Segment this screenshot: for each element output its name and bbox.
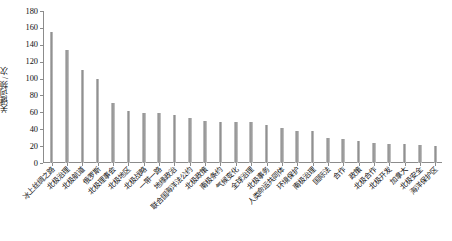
y-axis-tick-label: 120 [25, 56, 38, 67]
bar[interactable] [434, 146, 438, 163]
x-axis-tick-mark [343, 163, 344, 166]
x-axis-label: 合作 [332, 166, 348, 182]
bar-slot [305, 11, 320, 163]
x-axis-tick-mark [405, 163, 406, 166]
x-axis-tick-mark [435, 163, 436, 166]
bar[interactable] [188, 118, 192, 163]
bar[interactable] [65, 50, 69, 163]
bars-container [44, 11, 442, 163]
y-axis-tick-mark [40, 45, 43, 46]
bar-slot [197, 11, 212, 163]
x-axis-tick-mark [113, 163, 114, 166]
y-axis-tick-mark [40, 28, 43, 29]
bar[interactable] [357, 141, 361, 163]
y-axis-tick-mark [40, 62, 43, 63]
y-axis-tick-mark [40, 79, 43, 80]
x-axis-tick-mark [205, 163, 206, 166]
bar-slot [244, 11, 259, 163]
bar[interactable] [341, 139, 345, 163]
bar[interactable] [96, 79, 100, 163]
bar[interactable] [295, 131, 299, 163]
x-axis-tick-mark [236, 163, 237, 166]
y-axis-tick-label: 20 [30, 141, 38, 152]
bar-slot [397, 11, 412, 163]
bar-slot [105, 11, 120, 163]
bar-slot [366, 11, 381, 163]
bar-slot [90, 11, 105, 163]
y-axis-tick-mark [40, 146, 43, 147]
x-axis-tick-mark [282, 163, 283, 166]
x-axis-tick-mark [190, 163, 191, 166]
bar-slot [428, 11, 443, 163]
x-axis-tick-mark [174, 163, 175, 166]
x-axis-tick-mark [267, 163, 268, 166]
x-axis-tick-mark [374, 163, 375, 166]
bar[interactable] [280, 128, 284, 163]
y-axis-tick-label: 140 [25, 39, 38, 50]
y-axis-tick-mark [40, 129, 43, 130]
bar[interactable] [203, 121, 207, 163]
bar-slot [320, 11, 335, 163]
x-axis-tick-mark [420, 163, 421, 166]
bar-slot [121, 11, 136, 163]
bar-chart: 关键词频 / 次 020406080100120140160180 冰上丝绸之路… [0, 0, 452, 241]
bar[interactable] [326, 138, 330, 163]
bar-slot [213, 11, 228, 163]
y-axis-tick-label: 60 [30, 107, 38, 118]
bar-slot [274, 11, 289, 163]
y-axis-tick-label: 180 [25, 6, 38, 17]
y-axis-title: 关键词频 / 次 [1, 50, 15, 130]
bar-slot [59, 11, 74, 163]
bar[interactable] [219, 122, 223, 163]
bar-slot [336, 11, 351, 163]
x-axis-tick-mark [297, 163, 298, 166]
y-axis-tick-mark [40, 11, 43, 12]
x-axis-tick-mark [82, 163, 83, 166]
bar[interactable] [265, 125, 269, 163]
bar[interactable] [311, 131, 315, 163]
x-axis-tick-mark [67, 163, 68, 166]
y-axis-tick-mark [40, 112, 43, 113]
x-axis-tick-mark [98, 163, 99, 166]
bar[interactable] [418, 145, 422, 163]
x-axis-tick-mark [251, 163, 252, 166]
bar-slot [167, 11, 182, 163]
y-axis-tick-mark [40, 163, 43, 164]
x-axis-tick-mark [52, 163, 53, 166]
bar[interactable] [173, 115, 177, 163]
y-axis-tick-label: 160 [25, 22, 38, 33]
bar[interactable] [157, 113, 161, 163]
x-axis-tick-mark [313, 163, 314, 166]
bar[interactable] [249, 122, 253, 163]
x-axis-tick-mark [220, 163, 221, 166]
y-axis-tick-label: 80 [30, 90, 38, 101]
bar[interactable] [403, 144, 407, 163]
bar[interactable] [387, 144, 391, 163]
bar-slot [182, 11, 197, 163]
bar[interactable] [50, 32, 54, 163]
x-axis-tick-mark [159, 163, 160, 166]
bar-slot [382, 11, 397, 163]
bar-slot [412, 11, 427, 163]
x-axis-tick-mark [328, 163, 329, 166]
bar[interactable] [127, 111, 131, 163]
bar-slot [259, 11, 274, 163]
bar[interactable] [372, 143, 376, 163]
bar-slot [351, 11, 366, 163]
bar-slot [228, 11, 243, 163]
x-axis-tick-mark [389, 163, 390, 166]
bar-slot [75, 11, 90, 163]
bar-slot [290, 11, 305, 163]
y-axis-tick-label: 40 [30, 124, 38, 135]
bar[interactable] [142, 113, 146, 163]
x-axis-tick-mark [144, 163, 145, 166]
y-axis-tick-label: 0 [34, 158, 38, 169]
bar-slot [136, 11, 151, 163]
bar-slot [151, 11, 166, 163]
x-axis-tick-mark [359, 163, 360, 166]
bar[interactable] [234, 122, 238, 163]
x-axis-tick-mark [128, 163, 129, 166]
y-axis-tick-mark [40, 95, 43, 96]
bar[interactable] [111, 103, 115, 163]
bar[interactable] [81, 70, 85, 163]
